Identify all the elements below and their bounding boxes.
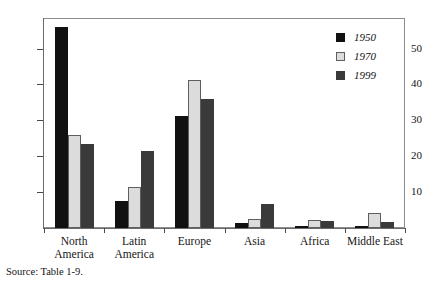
bar-1970 [188, 80, 201, 228]
bar-1999 [201, 99, 214, 228]
x-axis-label-line2: America [104, 248, 164, 261]
x-axis-label-line1: Latin [104, 235, 164, 248]
x-axis-label-africa: Africa [285, 235, 345, 248]
legend-swatch-icon [336, 52, 345, 61]
x-axis-label-line1: Europe [164, 235, 224, 248]
bar-1950 [355, 226, 368, 228]
bar-1999 [261, 204, 274, 228]
bar-1999 [141, 151, 154, 228]
y-tick-50 [37, 49, 43, 50]
y-tick-30 [37, 120, 43, 121]
x-tick [225, 228, 226, 233]
x-axis-label-line1: Africa [285, 235, 345, 248]
legend-item-1999: 1999 [336, 68, 376, 83]
legend: 195019701999 [336, 30, 376, 87]
bar-1970 [128, 187, 141, 228]
x-axis-label-line1: Asia [225, 235, 285, 248]
y-tick-20 [37, 156, 43, 157]
bar-group [295, 18, 334, 228]
bar-group [235, 18, 274, 228]
bar-1999 [381, 222, 394, 228]
x-axis-label-latin-america: LatinAmerica [104, 235, 164, 260]
chart-figure: 1020304050 NorthAmericaLatinAmericaEurop… [0, 0, 422, 288]
x-tick-origin [44, 228, 45, 233]
x-tick [285, 228, 286, 233]
bar-1970 [68, 135, 81, 228]
bar-group [115, 18, 154, 228]
x-axis-label-line2: America [44, 248, 104, 261]
y-axis [0, 0, 43, 288]
y-tick-10 [37, 192, 43, 193]
legend-swatch-icon [336, 33, 345, 42]
source-note: Source: Table 1-9. [6, 266, 83, 277]
legend-item-1950: 1950 [336, 30, 376, 45]
x-tick [405, 228, 406, 233]
x-axis-label-line1: North [44, 235, 104, 248]
legend-label: 1999 [354, 70, 376, 81]
bar-1950 [55, 27, 68, 228]
bar-1970 [308, 220, 321, 228]
legend-item-1970: 1970 [336, 49, 376, 64]
bar-1950 [235, 223, 248, 228]
x-axis-label-line1: Middle East [345, 235, 405, 248]
x-tick [164, 228, 165, 233]
legend-label: 1950 [354, 32, 376, 43]
bar-1970 [368, 213, 381, 228]
y-tick-40 [37, 84, 43, 85]
x-axis-label-europe: Europe [164, 235, 224, 248]
bar-1950 [115, 201, 128, 228]
bar-1999 [321, 221, 334, 228]
x-axis-label-north-america: NorthAmerica [44, 235, 104, 260]
legend-label: 1970 [354, 51, 376, 62]
x-tick [345, 228, 346, 233]
bar-1970 [248, 219, 261, 228]
bar-1999 [81, 144, 94, 228]
bar-1950 [175, 116, 188, 228]
x-axis-label-asia: Asia [225, 235, 285, 248]
x-axis-label-middle-east: Middle East [345, 235, 405, 248]
x-tick [104, 228, 105, 233]
bar-1950 [295, 226, 308, 228]
bar-group [55, 18, 94, 228]
legend-swatch-icon [336, 71, 345, 80]
bar-group [175, 18, 214, 228]
